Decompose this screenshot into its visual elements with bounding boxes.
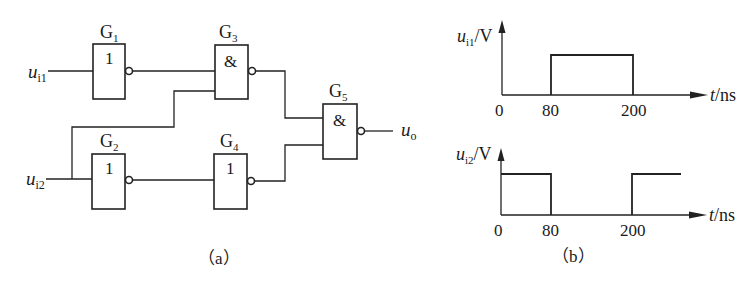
y-axis-arrow-icon [499, 20, 506, 33]
wire-g4-g5 [255, 145, 324, 181]
ui2-tick-200: 200 [620, 221, 646, 240]
caption-a: （a） [198, 249, 240, 268]
ui1-axis-label: ui1/V [457, 26, 493, 48]
g3-inverter-bubble [249, 68, 256, 75]
x-axis-arrow-icon [689, 212, 707, 219]
ui2-x-axis-label: t/ns [709, 205, 735, 225]
y-axis-arrow-icon [498, 148, 505, 161]
gate-g1-symbol: 1 [105, 49, 114, 68]
gate-g1-label: G1 [100, 22, 119, 44]
g4-inverter-bubble [248, 178, 255, 185]
g2-inverter-bubble [126, 177, 133, 184]
gate-g4-symbol: 1 [226, 159, 235, 178]
ui1-x-axis-label: t/ns [710, 85, 736, 105]
gate-g3-symbol: & [224, 52, 237, 71]
ui1-tick-200: 200 [621, 101, 647, 120]
gate-g2-label: G2 [100, 131, 119, 153]
gate-g5-symbol: & [333, 111, 346, 130]
ui2-waveform-second [632, 174, 681, 215]
gate-g3-label: G3 [219, 22, 238, 44]
g5-inverter-bubble [358, 128, 365, 135]
ui1-tick-0: 0 [495, 101, 504, 120]
ui1-tick-80: 80 [542, 101, 559, 120]
timing-diagram-bottom: ui2/V 0 80 200 t/ns （b） [456, 144, 735, 266]
ui2-tick-0: 0 [494, 221, 503, 240]
gate-g2-symbol: 1 [105, 159, 114, 178]
x-axis-arrow-icon [690, 92, 708, 99]
output-uo-label: uo [401, 119, 417, 143]
logic-circuit: ui1 G1 1 G3 & ui2 G2 1 G4 1 G5 [26, 22, 417, 268]
input-ui2-label: ui2 [26, 168, 45, 192]
caption-b: （b） [552, 247, 595, 266]
ui2-waveform-first [501, 174, 551, 215]
gate-g4-label: G4 [220, 131, 239, 153]
timing-diagram-top: ui1/V 0 80 200 t/ns [457, 20, 736, 120]
ui2-tick-80: 80 [542, 221, 559, 240]
ui2-axis-label: ui2/V [456, 144, 492, 166]
figure: ui1 G1 1 G3 & ui2 G2 1 G4 1 G5 [0, 0, 754, 282]
wire-g3-g5 [256, 71, 324, 118]
ui1-waveform [551, 55, 633, 95]
input-ui1-label: ui1 [28, 61, 47, 85]
g1-inverter-bubble [126, 68, 133, 75]
gate-g5-label: G5 [329, 81, 348, 103]
